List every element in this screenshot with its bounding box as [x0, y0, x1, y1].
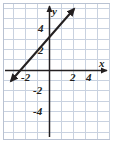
y-tick-label-neg4: -4	[33, 106, 42, 117]
x-tick-label-2: 2	[70, 72, 76, 83]
y-tick-label-neg2: -2	[33, 85, 42, 96]
y-tick-label-2: 2	[38, 45, 44, 56]
x-tick-label-4: 4	[86, 72, 92, 83]
coordinate-graph-figure: y x -2 2 4 4 2 -2 -4	[0, 0, 113, 143]
y-tick-label-4: 4	[38, 23, 44, 34]
x-axis-label: x	[99, 58, 105, 69]
x-tick-label-neg2: -2	[21, 72, 30, 83]
graph-canvas	[0, 0, 113, 143]
y-axis-label: y	[52, 6, 57, 17]
